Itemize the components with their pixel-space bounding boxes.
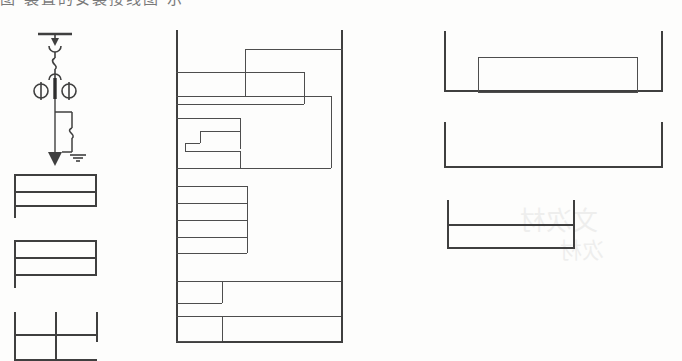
ground-symbol-icon: [70, 155, 86, 161]
right-bracket-upper-inner-rect: [478, 57, 638, 93]
arrow-down-icon: [51, 38, 59, 46]
middle-right-spine: [341, 30, 343, 342]
scanned-page: 图 装置的安装接线图 示 文次材 次材: [0, 0, 682, 361]
ghost-text-right: 文次材: [520, 200, 598, 237]
single-line-diagram: [0, 0, 130, 180]
earth-arrow-icon: [48, 152, 62, 166]
